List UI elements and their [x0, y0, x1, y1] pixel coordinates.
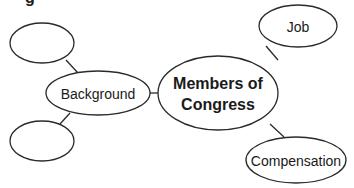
concept-map-diagram: g Background Members of Congress Job Com… — [0, 0, 354, 188]
node-center-label-line1: Members of — [173, 75, 263, 92]
edge-center-compensation — [270, 124, 284, 137]
node-center-label-line2: Congress — [181, 96, 255, 113]
node-background: Background — [46, 71, 150, 115]
node-job: Job — [259, 5, 337, 47]
cropped-header-text: g — [25, 0, 35, 6]
edge-background-empty-top — [66, 60, 78, 73]
edge-center-job — [266, 46, 278, 60]
edge-background-empty-bottom — [60, 113, 70, 124]
node-empty-top — [10, 23, 74, 63]
node-job-label: Job — [287, 19, 310, 35]
node-empty-bottom — [10, 121, 74, 161]
node-members-of-congress: Members of Congress — [158, 56, 278, 130]
node-background-label: Background — [61, 86, 136, 102]
node-compensation: Compensation — [246, 137, 346, 183]
node-compensation-label: Compensation — [251, 153, 341, 169]
